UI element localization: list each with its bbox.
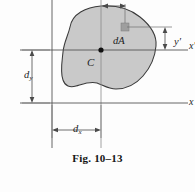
figure-caption: Fig. 10–13 [0,152,195,164]
centroid-point-marker [98,47,103,52]
shaded-area-region [61,6,156,89]
differential-area-label: dA [113,36,125,47]
d-y-dimension-label: dy [24,70,33,82]
y-prime-dimension-label: y′ [174,37,181,48]
dim-arrow-dx-left [52,128,58,133]
dim-arrow-dy-top [30,50,35,56]
d-x-dimension-label: dx [73,124,82,136]
axis-label-x-prime: x′ [189,41,195,51]
figure-container: C dA y′ dy dx x′ x Fig. 10–13 [0,0,195,192]
centroid-label: C [87,57,94,68]
dim-arrow-yprime-top [163,27,168,33]
axis-x-prime-mark: ′ [193,40,195,51]
dim-arrow-dy-bottom [30,97,35,103]
axis-label-x: x [189,97,193,107]
d-y-subscript: y [29,74,32,82]
d-x-subscript: x [78,128,81,136]
dim-arrow-yprime-bottom [163,44,168,50]
dim-arrow-dx-right [95,128,101,133]
y-prime-prime-mark: ′ [179,36,181,47]
